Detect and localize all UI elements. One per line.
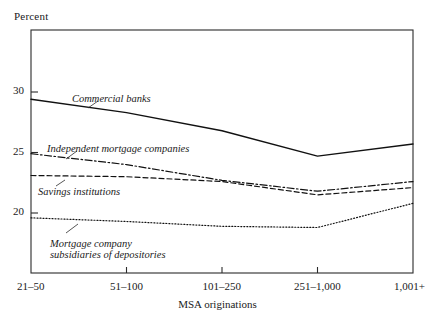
series-annotation-label: Mortgage company [50,238,132,250]
series-annotation-label: Savings institutions [38,186,120,198]
series-annotation-label: Independent mortgage companies [47,143,189,155]
chart-figure: Percent 302520 21–5051–100101–250251–1,0… [0,0,435,323]
x-tick-label: 251–1,000 [294,280,341,292]
x-tick-label: 51–100 [110,280,143,292]
series-annotation-label: Commercial banks [72,93,151,105]
x-axis-title: MSA originations [0,298,435,310]
chart-canvas [0,0,435,323]
series-line [31,203,413,227]
y-tick-marks [31,92,38,213]
x-tick-label: 1,001+ [394,280,425,292]
x-tick-label: 101–250 [203,280,242,292]
series-annotation-label: subsidiaries of depositories [50,249,166,261]
annotation-leader-lines [56,101,98,233]
x-tick-marks [127,267,318,273]
y-tick-label: 25 [0,145,24,157]
y-tick-label: 20 [0,205,24,217]
series-lines [31,99,413,227]
x-tick-label: 21–50 [17,280,45,292]
y-tick-label: 30 [0,84,24,96]
